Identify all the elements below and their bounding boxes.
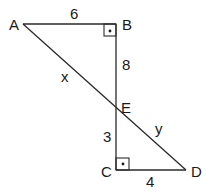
segment-label-ab: 6 <box>70 5 78 22</box>
point-label-c: C <box>101 163 112 180</box>
point-label-b: B <box>122 16 132 33</box>
point-label-d: D <box>191 163 202 180</box>
right-angle-marker-c <box>116 158 129 170</box>
point-label-e: E <box>121 99 131 116</box>
segment-label-be: 8 <box>122 56 130 73</box>
segment-label-cd: 4 <box>146 173 154 190</box>
segment-label-ae: x <box>61 68 69 85</box>
segment-label-ec: 3 <box>103 128 111 145</box>
geometry-diagram: A B E C D 6 8 x 3 y 4 <box>0 0 206 195</box>
right-angle-marker-b <box>104 24 116 36</box>
segment-label-ed: y <box>155 120 163 137</box>
point-label-a: A <box>9 16 19 33</box>
segment-ad <box>23 24 186 170</box>
